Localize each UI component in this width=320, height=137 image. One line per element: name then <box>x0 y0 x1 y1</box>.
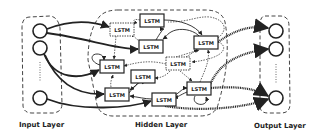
input-node-1 <box>33 24 47 38</box>
lstm-label: LSTM <box>135 74 151 80</box>
lstm-cell: LSTM <box>100 60 124 73</box>
input-to-hidden-edges <box>44 22 151 108</box>
input-node-2 <box>33 41 47 55</box>
lstm-label: LSTM <box>143 44 159 50</box>
lstm-cell: LSTM <box>166 57 190 70</box>
lstm-label: LSTM <box>191 86 207 92</box>
output-layer-label: Output Layer <box>254 122 306 130</box>
lstm-label: LSTM <box>109 92 125 98</box>
lstm-cell: LSTM <box>110 23 134 36</box>
input-node-3 <box>33 91 47 105</box>
lstm-cell: LSTM <box>152 93 176 106</box>
lstm-cell: LSTM <box>139 40 163 53</box>
lstm-cell: LSTM <box>194 36 218 49</box>
lstm-cells: LSTMLSTMLSTMLSTMLSTMLSTMLSTMLSTMLSTMLSTM <box>100 14 218 106</box>
lstm-cell: LSTM <box>131 70 155 83</box>
output-node-3 <box>269 91 283 105</box>
hidden-layer-label: Hidden Layer <box>135 121 187 129</box>
lstm-cell: LSTM <box>140 14 164 27</box>
lstm-cell: LSTM <box>187 82 211 95</box>
lstm-cell: LSTM <box>105 88 129 101</box>
lstm-label: LSTM <box>104 64 120 70</box>
output-node-1 <box>269 24 283 38</box>
lstm-label: LSTM <box>170 61 186 67</box>
lstm-label: LSTM <box>198 40 214 46</box>
rnn-diagram: LSTMLSTMLSTMLSTMLSTMLSTMLSTMLSTMLSTMLSTM <box>0 0 320 137</box>
lstm-label: LSTM <box>144 18 160 24</box>
lstm-label: LSTM <box>114 27 130 33</box>
output-node-2 <box>269 42 283 56</box>
lstm-label: LSTM <box>156 97 172 103</box>
input-layer-label: Input Layer <box>19 121 64 129</box>
